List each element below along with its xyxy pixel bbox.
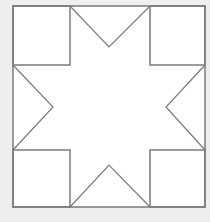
eight-point-star-diagram xyxy=(0,0,210,222)
outer-square xyxy=(13,6,205,207)
